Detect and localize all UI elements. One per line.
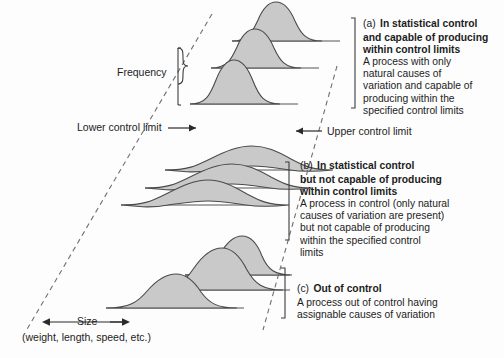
- upper-control-limit-label: Upper control limit: [327, 125, 412, 137]
- section-a-heading: (a) In statistical control and capable o…: [363, 13, 504, 56]
- section-a-body-line-1: A process with only: [363, 56, 504, 68]
- curve-group-a: [190, 2, 340, 104]
- section-b-body-line-4: within the specified control: [300, 235, 460, 247]
- section-a-title-line-2: and capable of producing: [363, 32, 504, 44]
- section-b-text: (b) In statistical control but not capab…: [300, 155, 460, 259]
- section-c-heading: (c) Out of control: [297, 278, 472, 297]
- section-c-title-line-1: Out of control: [313, 283, 381, 294]
- section-b-body-line-3: but not capable of producing: [300, 222, 460, 234]
- upper-limit-arrow: [296, 128, 322, 135]
- section-b-title-line-1: In statistical control: [317, 160, 414, 171]
- section-b-body-line-5: limits: [300, 247, 460, 259]
- section-b-heading: (b) In statistical control but not capab…: [300, 155, 460, 198]
- section-a-body-line-5: specified control limits: [363, 105, 504, 117]
- size-axis-label: Size: [77, 315, 97, 327]
- section-b-body-line-1: A process in control (only natural: [300, 198, 460, 210]
- section-a-title-line-3: within control limits: [363, 44, 504, 56]
- section-c-tag: (c): [297, 283, 309, 294]
- curve-group-c: [106, 236, 292, 308]
- section-c-body-line-2: assignable causes of variation: [297, 309, 472, 321]
- section-b-title-line-3: within control limits: [300, 186, 460, 198]
- frequency-axis-label: Frequency: [117, 66, 167, 78]
- lower-limit-arrow: [168, 125, 196, 132]
- section-a-body-line-2: natural causes of: [363, 68, 504, 80]
- section-b-tag: (b): [300, 160, 313, 171]
- section-b-title-line-2: but not capable of producing: [300, 174, 460, 186]
- section-a-text: (a) In statistical control and capable o…: [363, 13, 504, 117]
- lower-control-limit-label: Lower control limit: [77, 121, 162, 133]
- section-c-body-line-1: A process out of control having: [297, 297, 472, 309]
- section-a-tag: (a): [363, 18, 376, 29]
- section-a-body-line-3: variation and capable of: [363, 80, 504, 92]
- section-a-body-line-4: producing within the: [363, 93, 504, 105]
- spc-capability-diagram: Frequency Lower control limit Upper cont…: [0, 0, 504, 358]
- section-c-text: (c) Out of control A process out of cont…: [297, 278, 472, 321]
- size-units-label: (weight, length, speed, etc.): [22, 331, 151, 343]
- section-a-title-line-1: In statistical control: [380, 18, 477, 29]
- section-b-body-line-2: causes of variation are present): [300, 210, 460, 222]
